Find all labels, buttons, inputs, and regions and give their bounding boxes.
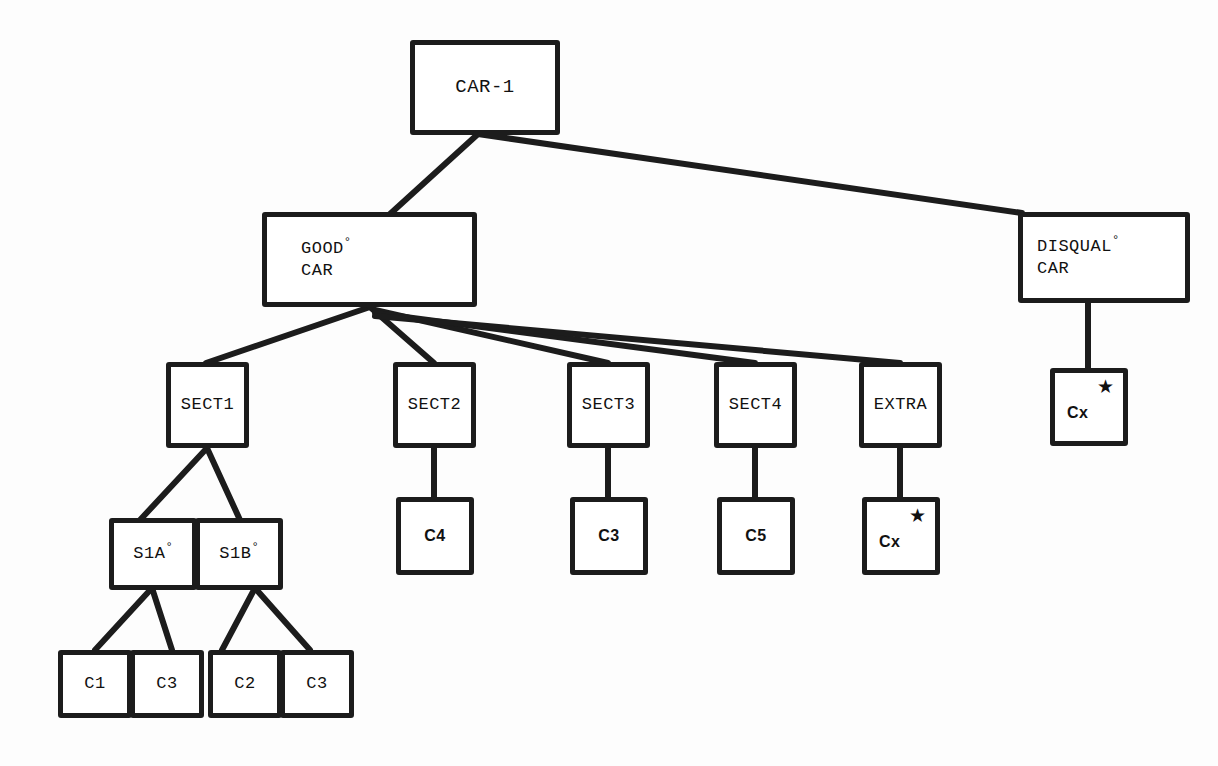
node-c5[interactable]: C5 [717, 497, 795, 575]
node-sect3-label: SECT3 [582, 394, 636, 415]
edge-sect1-s1b [207, 448, 240, 520]
node-s1b[interactable]: S1B° [195, 518, 283, 590]
node-good-car[interactable]: GOOD° CAR [262, 212, 477, 307]
node-c5-label: C5 [745, 526, 766, 546]
node-sect1[interactable]: SECT1 [166, 362, 249, 448]
node-s1a-label: S1A° [133, 543, 172, 564]
good-car-degree-icon: ° [344, 237, 351, 251]
disqual-car-degree-icon: ° [1112, 235, 1119, 249]
node-sect4[interactable]: SECT4 [714, 362, 797, 448]
node-c3-s1a-label: C3 [156, 673, 177, 694]
node-disqual-car-line1: DISQUAL° [1037, 236, 1119, 257]
node-sect3[interactable]: SECT3 [567, 362, 650, 448]
edge-s1b-c3 [255, 588, 310, 650]
edge-good-sect1 [206, 307, 370, 363]
node-c3-sect3[interactable]: C3 [570, 497, 648, 575]
node-sect2-label: SECT2 [408, 394, 462, 415]
node-disqual-car[interactable]: DISQUAL° CAR [1018, 212, 1190, 303]
node-cx-extra-label: Cx [879, 532, 900, 552]
node-s1a[interactable]: S1A° [109, 518, 197, 590]
cx-disqual-star-icon: ★ [1097, 377, 1114, 396]
node-c3-s1b[interactable]: C3 [280, 650, 354, 718]
node-extra-label: EXTRA [874, 394, 928, 415]
node-c3-sect3-label: C3 [598, 526, 619, 546]
edge-car1-disqual [478, 134, 1022, 213]
edge-car1-good [390, 134, 478, 214]
node-sect2[interactable]: SECT2 [393, 362, 476, 448]
node-c3-s1b-label: C3 [306, 673, 327, 694]
s1a-degree-icon: ° [165, 542, 172, 556]
node-c2[interactable]: C2 [208, 650, 282, 718]
edge-good-extra [375, 316, 900, 363]
node-c1[interactable]: C1 [58, 650, 132, 718]
edge-s1a-c3 [152, 588, 172, 650]
edge-sect1-s1a [140, 448, 207, 520]
node-c4-label: C4 [424, 526, 445, 546]
edge-good-sect2 [370, 307, 434, 363]
node-extra[interactable]: EXTRA [859, 362, 942, 448]
edge-good-sect3 [375, 310, 608, 363]
node-disqual-car-line2: CAR [1037, 258, 1069, 279]
node-s1b-label: S1B° [219, 543, 258, 564]
edge-s1a-c1 [95, 588, 152, 650]
edge-s1b-c2 [222, 588, 255, 650]
s1b-degree-icon: ° [251, 542, 258, 556]
node-c3-s1a[interactable]: C3 [130, 650, 204, 718]
node-cx-disqual[interactable]: ★ Cx [1050, 368, 1128, 446]
node-cx-disqual-label: Cx [1067, 403, 1088, 423]
edge-good-sect4 [375, 313, 755, 363]
node-cx-extra[interactable]: ★ Cx [862, 497, 940, 575]
node-car1-label: CAR-1 [455, 76, 515, 100]
cx-extra-star-icon: ★ [909, 506, 926, 525]
node-sect4-label: SECT4 [729, 394, 783, 415]
node-good-car-line2: CAR [301, 260, 333, 281]
node-c4[interactable]: C4 [396, 497, 474, 575]
node-c1-label: C1 [84, 673, 105, 694]
node-sect1-label: SECT1 [181, 394, 235, 415]
node-car1[interactable]: CAR-1 [410, 40, 560, 135]
node-c2-label: C2 [234, 673, 255, 694]
diagram-canvas: CAR-1 GOOD° CAR DISQUAL° CAR SECT1 SECT2… [0, 0, 1218, 766]
node-good-car-line1: GOOD° [301, 238, 351, 259]
